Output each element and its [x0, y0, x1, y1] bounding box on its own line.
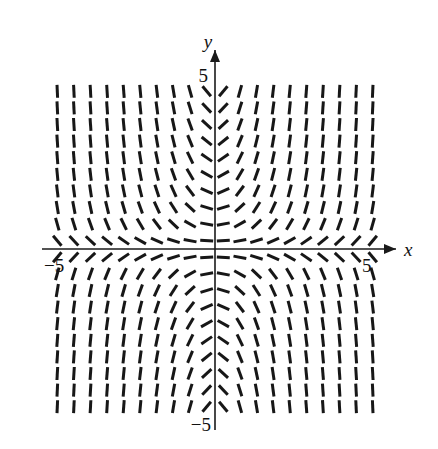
- slope-segment: [254, 168, 258, 180]
- slope-segment: [304, 284, 308, 296]
- slope-segment: [272, 168, 275, 181]
- slope-segment: [339, 184, 341, 197]
- slope-segment: [156, 151, 159, 164]
- slope-segment: [286, 268, 293, 279]
- slope-segment: [288, 201, 292, 213]
- slope-segment: [156, 351, 158, 364]
- slope-segment: [123, 367, 124, 380]
- slope-segment: [306, 85, 307, 98]
- slope-segment: [56, 201, 58, 214]
- slope-segment: [122, 301, 125, 314]
- slope-segment: [335, 236, 344, 245]
- slope-segment: [372, 301, 374, 314]
- slope-segment: [339, 317, 341, 330]
- slope-segment: [272, 384, 274, 397]
- slope-segment: [289, 367, 291, 380]
- slope-segment: [73, 350, 74, 363]
- slope-segment: [238, 102, 242, 114]
- slope-segment: [155, 185, 159, 197]
- slope-segment: [255, 118, 258, 131]
- slope-segment: [90, 135, 91, 148]
- slope-segment: [355, 317, 356, 330]
- slope-segment: [355, 284, 357, 297]
- slope-segment: [235, 286, 244, 295]
- slope-segment: [107, 384, 108, 397]
- slope-segment: [269, 269, 277, 279]
- slope-segment: [289, 135, 291, 148]
- slope-segment: [123, 350, 124, 363]
- slope-segment: [356, 118, 357, 131]
- slope-segment: [57, 317, 58, 330]
- slope-segment: [238, 400, 242, 413]
- slope-segment: [57, 367, 58, 380]
- slope-segment: [201, 171, 212, 177]
- slope-segment: [238, 367, 242, 379]
- slope-segment: [234, 271, 245, 277]
- slope-segment: [139, 301, 142, 314]
- slope-segment: [356, 151, 357, 164]
- slope-segment: [73, 135, 74, 148]
- slope-segment: [372, 384, 373, 397]
- slope-segment: [73, 118, 74, 131]
- slope-segment: [270, 285, 275, 297]
- slope-segment: [354, 218, 358, 230]
- x-axis-tick-label-left: −5: [44, 255, 64, 276]
- slope-segment: [169, 269, 178, 278]
- slope-segment: [372, 284, 374, 297]
- slope-segment: [184, 221, 195, 227]
- slope-segment: [356, 334, 357, 347]
- slope-segment: [219, 369, 228, 378]
- slope-segment: [57, 184, 59, 197]
- slope-segment: [267, 255, 279, 260]
- slope-segment: [237, 135, 242, 147]
- slope-segment: [187, 334, 193, 346]
- slope-field-figure: x y −5 5 5 −5: [0, 0, 438, 449]
- slope-segment: [202, 353, 212, 361]
- slope-segment: [90, 118, 91, 131]
- slope-segment: [102, 253, 112, 261]
- slope-segment: [118, 254, 129, 261]
- slope-segment: [255, 384, 257, 397]
- slope-segment: [288, 185, 291, 198]
- slope-segment: [339, 151, 340, 164]
- slope-segment: [372, 317, 373, 330]
- slope-segment: [172, 102, 174, 115]
- slope-segment: [337, 218, 341, 230]
- slope-segment: [354, 268, 358, 280]
- slope-segment: [90, 367, 91, 380]
- x-axis-tick-label-right: 5: [362, 255, 372, 276]
- slope-segment: [188, 400, 192, 413]
- slope-segment: [172, 351, 175, 364]
- slope-segment: [217, 240, 230, 241]
- slope-segment: [339, 367, 340, 380]
- slope-segment: [73, 168, 74, 181]
- slope-segment: [322, 118, 323, 131]
- slope-segment: [88, 218, 92, 230]
- slope-segment: [151, 238, 163, 243]
- slope-segment: [250, 255, 262, 259]
- slope-segment: [106, 334, 107, 347]
- slope-segment: [238, 118, 242, 130]
- slope-segment: [200, 240, 213, 241]
- x-axis-arrowhead: [384, 244, 396, 254]
- slope-segment: [139, 334, 141, 347]
- slope-segment: [305, 317, 307, 330]
- slope-segment: [372, 85, 373, 98]
- slope-segment: [255, 85, 257, 98]
- slope-segment: [89, 201, 92, 214]
- slope-segment: [106, 317, 108, 330]
- slope-segment: [203, 86, 211, 96]
- slope-segment: [372, 168, 373, 181]
- slope-segment: [154, 285, 159, 297]
- slope-segment: [304, 201, 308, 213]
- slope-segment: [139, 350, 141, 363]
- slope-segment: [171, 168, 175, 180]
- slope-segment: [86, 253, 95, 262]
- slope-segment: [339, 350, 340, 363]
- slope-segment: [140, 400, 141, 413]
- slope-segment: [305, 334, 307, 347]
- slope-segment: [219, 103, 228, 112]
- slope-segment: [73, 367, 74, 380]
- slope-segment: [140, 85, 141, 98]
- slope-segment: [135, 238, 146, 244]
